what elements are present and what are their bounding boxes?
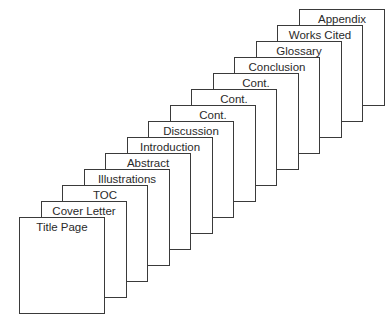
page-stack-diagram: Appendix Works Cited Glossary Conclusion… xyxy=(0,0,392,331)
page-title-page: Title Page xyxy=(19,217,105,314)
page-label: Title Page xyxy=(20,221,104,234)
